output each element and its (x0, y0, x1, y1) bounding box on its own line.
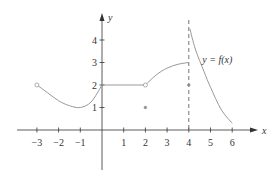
filled-point (144, 106, 147, 109)
x-tick-label: 1 (121, 137, 126, 148)
open-point (143, 83, 147, 87)
y-axis-arrow-icon (100, 13, 105, 21)
x-tick-label: −3 (32, 137, 43, 148)
y-tick-label: 2 (92, 80, 97, 91)
x-tick-label: 4 (186, 137, 191, 148)
x-axis-arrow-icon (250, 128, 258, 133)
function-label: y = f(x) (201, 54, 233, 66)
y-tick-label: 1 (92, 102, 97, 113)
x-tick-label: 3 (165, 137, 170, 148)
y-tick-label: 4 (92, 35, 97, 46)
points (35, 83, 190, 109)
filled-point (188, 84, 191, 87)
y-tick-label: 3 (92, 57, 97, 68)
segment-3 (145, 63, 188, 86)
labels: xy−3−2−11234561234y = f(x) (32, 12, 267, 148)
x-tick-label: 6 (230, 137, 235, 148)
open-point (35, 83, 39, 87)
function-graph: xy−3−2−11234561234y = f(x) (0, 0, 271, 179)
y-axis-label: y (107, 12, 113, 23)
x-tick-label: −2 (53, 137, 64, 148)
x-tick-label: 2 (143, 137, 148, 148)
x-axis-label: x (261, 125, 267, 136)
x-tick-label: −1 (75, 137, 86, 148)
x-tick-label: 5 (208, 137, 213, 148)
curves (37, 20, 232, 130)
segment-4 (190, 29, 232, 124)
